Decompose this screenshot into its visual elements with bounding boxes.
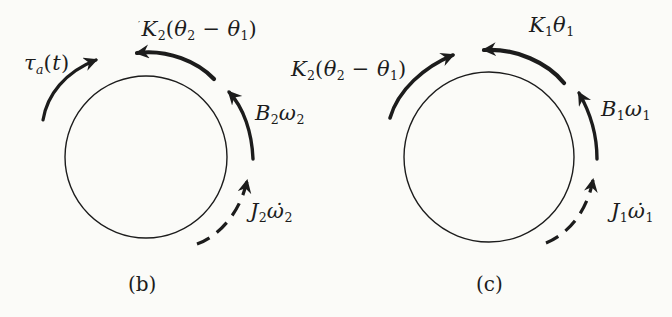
inertia-torque-label-c: J1ω̇1 xyxy=(611,201,653,224)
diagram-b xyxy=(43,52,253,244)
applied-torque-label-b: τa(t) xyxy=(24,53,70,76)
damper-torque-label-c: B1ω1 xyxy=(601,99,650,122)
damper-torque-arrow-c xyxy=(579,93,597,159)
spring-torque-arrow-b xyxy=(137,52,214,79)
rotor-circle-b xyxy=(65,76,227,238)
diagram-canvas xyxy=(0,0,672,317)
rotor-circle-c xyxy=(404,72,574,242)
spring-k2-torque-label-c: K2(θ2 − θ1) xyxy=(291,59,407,82)
diagram-c xyxy=(390,50,597,243)
damper-torque-arrow-b xyxy=(229,92,253,159)
torque-diagram-figure: τa(t) ′K2(θ2 − θ1) B2ω2 J2ω̇2 (b) K2(θ2 … xyxy=(0,0,672,317)
caption-b: (b) xyxy=(128,274,156,294)
spring-torque-label-b: ′K2(θ2 − θ1) xyxy=(138,19,257,42)
inertia-torque-label-b: J2ω̇2 xyxy=(250,201,292,224)
caption-c: (c) xyxy=(476,274,503,294)
damper-torque-label-b: B2ω2 xyxy=(255,103,304,126)
spring-k1-torque-label-c: K1θ1 xyxy=(529,15,574,38)
inertia-torque-arrow-c xyxy=(546,180,593,243)
spring-k1-torque-arrow-c xyxy=(484,50,564,83)
